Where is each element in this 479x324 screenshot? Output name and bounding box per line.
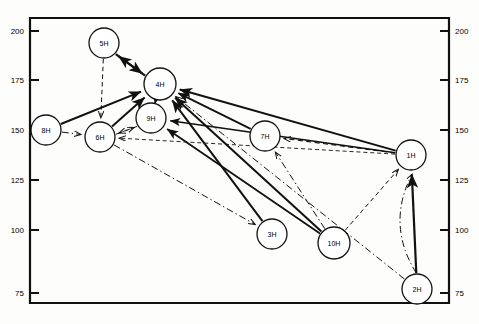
axis-tick-label-right-125: 125 [455,176,469,185]
node-1h[interactable]: 1H [396,140,426,170]
edge-10H-to-4H [175,98,321,232]
axis-tick-label-right-75: 75 [455,289,464,298]
nodes: 5H4H9H8H6H7H1H3H10H2H [31,28,432,304]
edge-10H-to-1H [345,170,398,231]
node-10h[interactable]: 10H [318,227,350,259]
edge-2H-to-1H [412,174,416,273]
axis-tick-label-left-100: 100 [11,226,25,235]
node-8h[interactable]: 8H [31,115,61,145]
node-label-10h: 10H [328,240,341,247]
node-2h[interactable]: 2H [402,274,432,304]
node-label-1h: 1H [407,152,416,159]
edge-2H-to-4H [176,97,404,279]
node-label-2h: 2H [413,286,422,293]
node-9h[interactable]: 9H [136,103,166,133]
edge-8H-to-4H [61,92,141,124]
node-3h[interactable]: 3H [257,219,287,249]
edge-10H-to-7H [276,152,325,228]
axis-tick-label-left-75: 75 [15,289,24,298]
edge-9H-to-6H [119,126,137,133]
network-diagram: 2001751501251007520017515012510075 5H4H9… [0,0,479,324]
edge-6H-to-9H [116,128,134,135]
node-label-4h: 4H [156,81,165,88]
edges [61,54,416,279]
axis-tick-label-left-175: 175 [11,76,25,85]
edge-1H-to-4H [180,90,396,151]
figure-canvas: 2001751501251007520017515012510075 5H4H9… [0,0,479,324]
node-label-7h: 7H [261,133,270,140]
edge-4H-to-5H [119,56,146,75]
node-6h[interactable]: 6H [85,122,115,152]
axis-tick-label-left-125: 125 [11,176,25,185]
axis-tick-label-right-100: 100 [455,226,469,235]
edge-6H-to-3H [114,145,255,225]
axis-tick-label-right-150: 150 [455,126,469,135]
node-label-8h: 8H [42,127,51,134]
axis-tick-label-left-150: 150 [11,126,25,135]
node-label-9h: 9H [147,115,156,122]
node-7h[interactable]: 7H [250,121,280,151]
node-label-5h: 5H [100,40,109,47]
axis-tick-label-right-175: 175 [455,76,469,85]
node-5h[interactable]: 5H [89,28,119,58]
plot-frame [30,18,449,303]
axis-tick-label-left-200: 200 [11,27,25,36]
edge-8H-to-6H [62,132,81,134]
axis-tick-label-right-200: 200 [455,27,469,36]
node-4h[interactable]: 4H [144,68,176,100]
node-label-6h: 6H [96,134,105,141]
node-label-3h: 3H [268,231,277,238]
